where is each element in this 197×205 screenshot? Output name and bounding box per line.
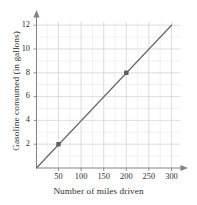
y-axis-title: Gasoline consumed (in gallons) <box>11 6 23 176</box>
y-axis-arrow <box>33 10 39 18</box>
grid-horizontal <box>37 25 181 156</box>
x-axis-title: Number of miles driven <box>0 186 197 196</box>
x-axis-arrow <box>181 165 189 171</box>
data-point-marker <box>124 71 128 75</box>
data-point-marker <box>56 142 60 146</box>
grid-vertical <box>47 22 171 168</box>
gasoline-consumption-chart: 12 10 8 6 4 2 50 100 150 200 250 300 Num… <box>0 0 197 205</box>
x-tick-label: 300 <box>159 172 185 181</box>
